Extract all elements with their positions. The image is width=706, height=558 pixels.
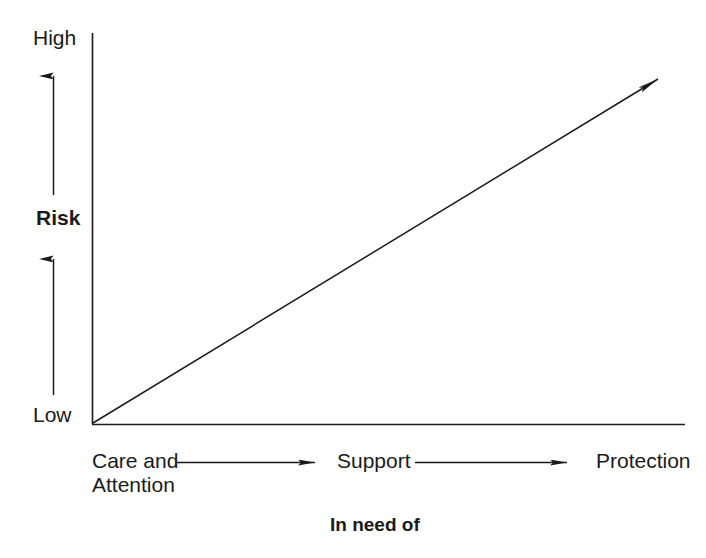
x-axis-stage-support: Support (337, 449, 411, 473)
y-axis-title: Risk (36, 206, 80, 230)
x-axis-stage-protection: Protection (596, 449, 691, 473)
risk-need-diagram: High Risk Low Care and Attention Support… (0, 0, 706, 558)
x-stage-care-line2: Attention (92, 473, 178, 497)
y-axis-high-label: High (33, 26, 76, 50)
x-axis-title: In need of (330, 513, 420, 537)
trend-line (93, 79, 658, 423)
y-axis-low-label: Low (33, 403, 72, 427)
x-axis-stage-care-and-attention: Care and Attention (92, 449, 178, 497)
x-stage-care-line1: Care and (92, 449, 178, 472)
